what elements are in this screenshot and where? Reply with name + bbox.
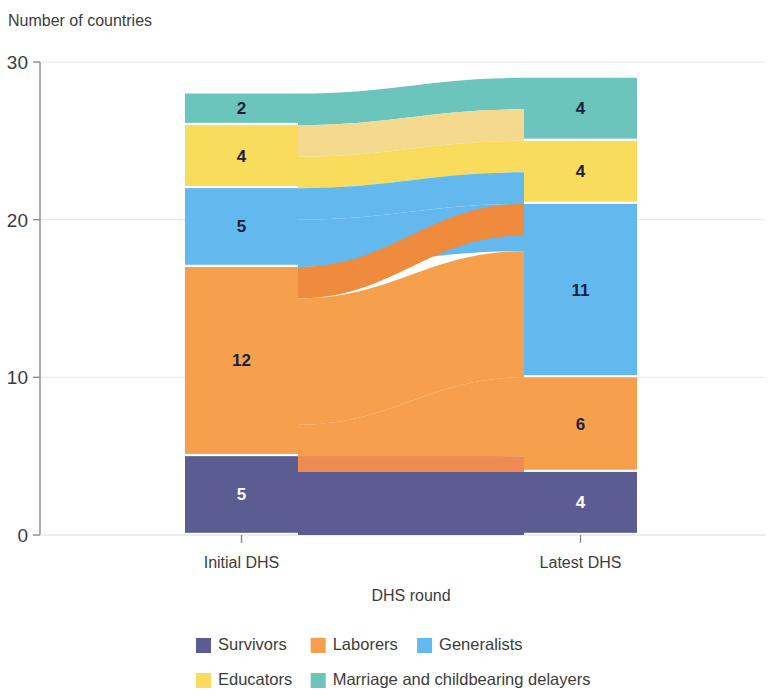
flow-survivors-to-survivors: [298, 472, 524, 535]
y-tick-30: 30: [7, 52, 28, 73]
node-value-latest-laborers: 6: [576, 415, 585, 434]
legend-swatch: [196, 673, 211, 688]
legend-swatch: [311, 673, 326, 688]
y-tick-0: 0: [17, 525, 28, 546]
node-value-initial-educators: 4: [237, 147, 247, 166]
legend-text: Marriage and childbearing delayers: [333, 670, 591, 688]
sankey-chart: 245125441164Number of countries0102030In…: [0, 0, 772, 698]
node-value-initial-laborers: 12: [232, 351, 251, 370]
node-value-initial-delayers: 2: [237, 99, 246, 118]
x-axis-title-text: DHS round: [371, 587, 450, 604]
y-tick-20: 20: [7, 210, 28, 231]
legend: SurvivorsLaborersGeneralistsEducatorsMar…: [196, 635, 590, 688]
legend-text: Survivors: [218, 635, 287, 653]
y-tick-10: 10: [7, 367, 28, 388]
flow-survivors-to-laborers: [298, 456, 524, 472]
legend-text: Educators: [218, 670, 292, 688]
node-value-initial-generalists: 5: [237, 217, 246, 236]
node-value-latest-generalists: 11: [572, 281, 590, 300]
node-value-initial-survivors: 5: [237, 485, 246, 504]
y-axis-title-text: Number of countries: [8, 12, 152, 29]
legend-text: Laborers: [333, 635, 398, 653]
legend-swatch: [417, 638, 432, 653]
legend-text: Generalists: [439, 635, 522, 653]
node-value-latest-educators: 4: [576, 162, 586, 181]
flow-ribbons: [298, 78, 524, 535]
stage-label-latest-text: Latest DHS: [540, 554, 622, 571]
legend-swatch: [196, 638, 211, 653]
stage-label-initial-text: Initial DHS: [204, 554, 280, 571]
chart-root: 245125441164Number of countries0102030In…: [0, 0, 772, 698]
node-value-latest-delayers: 4: [576, 99, 586, 118]
node-value-latest-survivors: 4: [576, 493, 586, 512]
legend-swatch: [311, 638, 326, 653]
